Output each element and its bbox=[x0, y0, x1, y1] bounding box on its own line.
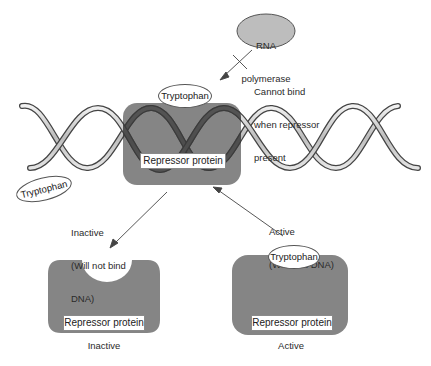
active-tryptophan: Tryptophan bbox=[268, 245, 320, 269]
active-caption: Active bbox=[261, 340, 321, 351]
cannot-bind-line1: Cannot bind bbox=[254, 86, 319, 97]
bound-repressor-label: Repressor protein bbox=[140, 153, 226, 169]
trp-repressor-diagram: Tryptophan RNA polymerase Cannot bind wh… bbox=[0, 0, 431, 366]
inactive-note: Inactive (Will not bind DNA) bbox=[71, 205, 126, 326]
diagram-graphics: Tryptophan bbox=[0, 0, 431, 366]
cannot-bind-note: Cannot bind when repressor present bbox=[254, 64, 319, 185]
inactive-note-line1: Inactive bbox=[71, 227, 126, 238]
active-repressor-label: Repressor protein bbox=[251, 315, 333, 331]
inactive-note-line2: (Will not bind bbox=[71, 260, 126, 271]
cannot-bind-line3: present bbox=[254, 152, 319, 163]
cannot-bind-line2: when repressor bbox=[254, 119, 319, 130]
active-note-line1: Active bbox=[269, 226, 334, 237]
inactive-note-line3: DNA) bbox=[71, 293, 126, 304]
inactive-repressor-label: Repressor protein bbox=[63, 315, 145, 331]
inactive-caption: Inactive bbox=[74, 340, 134, 351]
rna-polymerase-label-line1: RNA bbox=[237, 40, 295, 51]
bound-tryptophan: Tryptophan bbox=[158, 84, 212, 108]
